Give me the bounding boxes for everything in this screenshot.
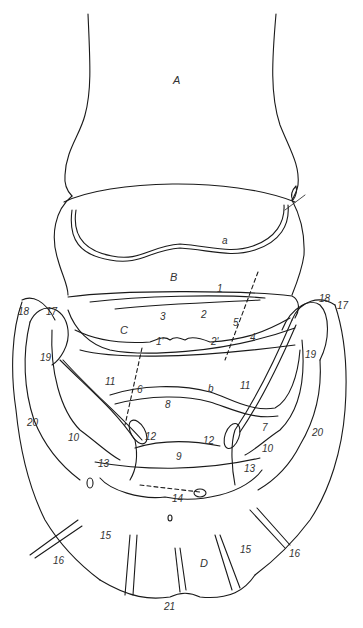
label-16-right: 16 xyxy=(289,549,300,559)
label-19-left: 19 xyxy=(40,353,51,363)
line-11-right-a xyxy=(232,320,292,485)
label-7: 7 xyxy=(262,423,268,433)
hoof-wall-right xyxy=(255,305,346,575)
label-17-right: 17 xyxy=(337,301,348,311)
groove-center-b xyxy=(180,548,186,590)
label-15-left: 15 xyxy=(100,531,111,541)
label-20-left: 20 xyxy=(27,418,38,428)
label-1-prime: 1' xyxy=(156,337,163,347)
foramen-bottom xyxy=(168,515,172,521)
groove-16-left-b xyxy=(35,526,82,558)
hoof-wall-left-inner xyxy=(25,322,80,480)
bone-b-right-outline xyxy=(292,200,304,295)
label-6: 6 xyxy=(137,385,143,395)
bone-b-left-outline xyxy=(54,196,72,295)
label-8: 8 xyxy=(165,400,171,410)
label-21: 21 xyxy=(164,602,175,612)
bone-c-top-outline xyxy=(68,292,298,318)
label-11-left: 11 xyxy=(105,377,115,387)
articular-line-a-outer xyxy=(71,205,288,261)
line-11-right-b xyxy=(240,325,296,432)
foramen-right xyxy=(194,489,206,497)
articular-line-a-inner xyxy=(75,205,284,257)
label-9: 9 xyxy=(176,452,182,462)
label-10-left: 10 xyxy=(68,433,79,443)
anatomical-diagram: A B C D a b 1 1' 2 2' 3 4 5 6 7 8 9 10 1… xyxy=(0,0,363,628)
label-c: C xyxy=(120,325,128,336)
bone-b-top-outline xyxy=(64,184,295,202)
label-20-right: 20 xyxy=(312,428,323,438)
line-b-upper xyxy=(110,350,300,409)
bone-a-left-outline xyxy=(65,14,90,196)
groove-15-left-a xyxy=(125,535,130,595)
label-12-left: 12 xyxy=(145,432,156,442)
line-10-right xyxy=(245,340,303,455)
label-19-right: 19 xyxy=(305,350,316,360)
label-17-left: 17 xyxy=(46,307,57,317)
label-12-right: 12 xyxy=(203,436,214,446)
label-13-left: 13 xyxy=(98,459,109,469)
label-15-right: 15 xyxy=(240,545,251,555)
label-a-upper: A xyxy=(173,75,180,86)
groove-16-left-a xyxy=(30,520,78,555)
groove-16-right-b xyxy=(257,508,290,545)
label-2-prime: 2' xyxy=(211,337,218,347)
bone-a-right-outline xyxy=(273,14,299,200)
label-18-right: 18 xyxy=(319,294,330,304)
label-18-left: 18 xyxy=(18,307,29,317)
label-2: 2 xyxy=(201,310,207,320)
groove-16-right-a xyxy=(250,510,285,548)
label-1: 1 xyxy=(217,284,223,294)
label-4: 4 xyxy=(250,333,256,343)
label-11-right: 11 xyxy=(240,381,250,391)
sole-bottom-outline xyxy=(100,575,255,598)
label-b: B xyxy=(170,272,177,283)
label-d: D xyxy=(200,558,208,569)
groove-center-a xyxy=(175,548,180,592)
label-b-lower: b xyxy=(208,384,214,394)
label-3: 3 xyxy=(160,312,166,322)
label-10-right: 10 xyxy=(262,444,273,454)
groove-15-left-b xyxy=(133,535,137,595)
label-16-left: 16 xyxy=(53,556,64,566)
label-5: 5 xyxy=(233,318,239,328)
dashed-line-14 xyxy=(140,485,200,492)
line-2 xyxy=(115,300,260,309)
label-14: 14 xyxy=(172,494,183,504)
dashed-line-5 xyxy=(225,272,258,360)
label-13-right: 13 xyxy=(244,464,255,474)
foramen-left xyxy=(87,478,93,488)
label-a-lower: a xyxy=(222,236,228,246)
